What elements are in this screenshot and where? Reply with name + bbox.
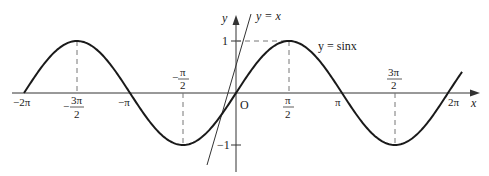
y-tick-neg-one: −1: [217, 138, 230, 152]
x-tick-pi: π: [335, 96, 341, 108]
x-tick-neg-2pi: −2π: [13, 96, 31, 108]
svg-text:π: π: [180, 66, 186, 78]
x-axis-label: x: [470, 96, 477, 110]
svg-text:−: −: [63, 100, 69, 112]
sin-label: y = sinx: [318, 39, 357, 53]
svg-text:π: π: [285, 94, 291, 106]
svg-text:3π: 3π: [71, 94, 83, 106]
x-tick-2pi: 2π: [448, 96, 460, 108]
x-tick-3pi-2: 3π 2: [387, 66, 402, 91]
y-axis-label: y: [221, 11, 228, 25]
x-tick-pi-2: π 2: [283, 94, 294, 120]
x-tick-neg-pi-2: − π 2: [172, 66, 189, 91]
x-tick-neg-3pi-2: − 3π 2: [63, 94, 84, 120]
svg-text:2: 2: [285, 108, 291, 120]
sine-graph: y x O y = x y = sinx 1 −1 −2π −π π 2π − …: [0, 0, 489, 176]
origin-label: O: [240, 98, 249, 112]
y-tick-one: 1: [222, 34, 228, 48]
svg-text:3π: 3π: [388, 66, 400, 78]
x-tick-neg-pi: −π: [118, 96, 130, 108]
svg-text:2: 2: [391, 79, 397, 91]
svg-text:2: 2: [74, 108, 80, 120]
y-axis-arrow-icon: [233, 15, 240, 25]
line-label: y = x: [255, 9, 281, 23]
svg-text:−: −: [172, 71, 178, 83]
svg-text:2: 2: [180, 79, 186, 91]
